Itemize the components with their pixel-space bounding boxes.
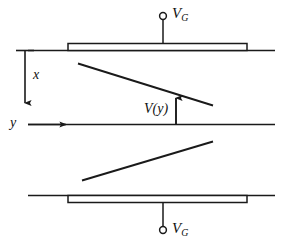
- label-gate-voltage-top-symbol: V: [172, 5, 181, 21]
- bottom-wall-group: [28, 196, 275, 203]
- bottom-terminal-circle-icon: [160, 227, 167, 234]
- velocity-profile-upper-line: [78, 64, 213, 106]
- label-gate-voltage-bottom-symbol: V: [172, 220, 181, 236]
- label-axis-x: x: [33, 68, 39, 82]
- label-gate-voltage-top-subscript: G: [181, 12, 188, 23]
- label-gate-voltage-top: VG: [172, 6, 188, 23]
- figure-canvas: VG VG V(y) x y: [0, 0, 303, 246]
- label-gate-voltage-bottom: VG: [172, 221, 188, 238]
- top-wall-group: [28, 44, 275, 51]
- diagram-svg: [0, 0, 303, 246]
- top-terminal-group: [160, 13, 167, 44]
- top-electrode-plate: [68, 44, 247, 51]
- label-axis-y: y: [10, 116, 16, 130]
- top-terminal-circle-icon: [160, 13, 167, 20]
- label-gate-voltage-bottom-subscript: G: [181, 227, 188, 238]
- bottom-electrode-plate: [68, 196, 247, 203]
- x-axis-group: [16, 51, 34, 104]
- velocity-profile-lower-line: [82, 142, 213, 181]
- bottom-terminal-group: [160, 203, 167, 234]
- label-velocity-profile: V(y): [144, 102, 168, 116]
